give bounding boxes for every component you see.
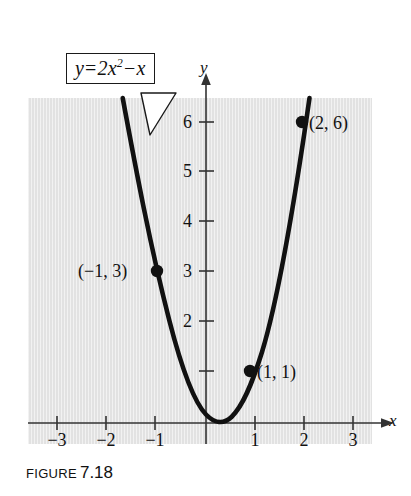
point-label-neg1-3: (−1, 3) (78, 261, 127, 282)
figure-caption: FIGURE7.18 (26, 463, 113, 483)
x-tick-label-neg2: −2 (91, 430, 121, 451)
figure-container: y=2x2−x y x −3 −2 −1 1 2 3 2 3 4 5 6 (−1… (0, 0, 411, 496)
equation-coefficient: 2 (98, 57, 108, 79)
equation-lhs: y (75, 57, 84, 79)
caption-number: 7.18 (77, 463, 113, 482)
caption-word: FIGURE (26, 466, 77, 481)
y-tick-label-5: 5 (170, 161, 192, 182)
y-tick-label-3: 3 (170, 261, 192, 282)
equation-trailing-variable: x (137, 57, 146, 79)
data-point-marker (151, 265, 163, 277)
x-tick-label-3: 3 (338, 430, 368, 451)
equation-variable: x (108, 57, 117, 79)
x-tick-label-1: 1 (240, 430, 270, 451)
equation-equals: = (84, 57, 97, 79)
data-point-marker (296, 116, 308, 128)
x-tick-label-neg1: −1 (140, 430, 170, 451)
y-tick-label-4: 4 (170, 211, 192, 232)
y-tick-label-6: 6 (170, 112, 192, 133)
y-axis-label: y (200, 58, 208, 78)
point-label-2-6: (2, 6) (309, 113, 348, 134)
equation-label: y=2x2−x (75, 57, 146, 79)
point-label-1-1: (1, 1) (257, 362, 296, 383)
data-point-marker (244, 365, 256, 377)
equation-minus: − (123, 57, 136, 79)
x-tick-label-2: 2 (289, 430, 319, 451)
x-tick-label-neg3: −3 (42, 430, 72, 451)
x-axis-label: x (389, 411, 397, 431)
y-tick-label-2: 2 (170, 311, 192, 332)
equation-callout-box: y=2x2−x (66, 53, 155, 84)
y-axis (201, 73, 211, 444)
